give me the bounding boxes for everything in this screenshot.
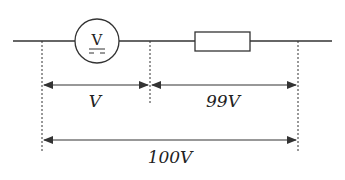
voltmeter-voltage-label: V [89, 91, 103, 111]
resistor-voltage-label: 99V [206, 91, 242, 111]
voltmeter-symbol: V [75, 19, 119, 63]
extension-lines [42, 41, 298, 152]
circuit-diagram: V V 99V 100V [0, 0, 345, 180]
total-voltage-label: 100V [148, 147, 194, 167]
resistor-symbol [195, 32, 250, 51]
voltmeter-label: V [91, 31, 104, 49]
